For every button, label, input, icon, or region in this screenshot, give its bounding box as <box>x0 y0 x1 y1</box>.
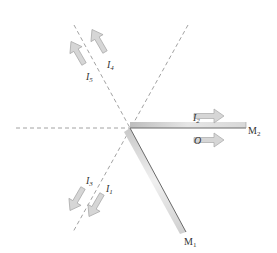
label-o: O <box>194 135 201 146</box>
label-m2: M2 <box>248 125 261 138</box>
diagram-canvas: M2 M1 I2 O I4 I5 I3 I1 <box>0 0 277 253</box>
mirror-m2 <box>130 122 246 128</box>
label-i1: I1 <box>105 183 113 196</box>
label-i4: I4 <box>106 59 114 72</box>
mirror-m1 <box>124 128 186 234</box>
arrow-i1 <box>83 191 108 221</box>
label-i3: I3 <box>85 175 93 188</box>
label-i5: I5 <box>85 71 93 84</box>
label-m1: M1 <box>184 236 197 249</box>
arrow-i4 <box>86 26 111 56</box>
arrow-i5 <box>65 38 90 68</box>
dashed-line-steep <box>74 25 130 128</box>
